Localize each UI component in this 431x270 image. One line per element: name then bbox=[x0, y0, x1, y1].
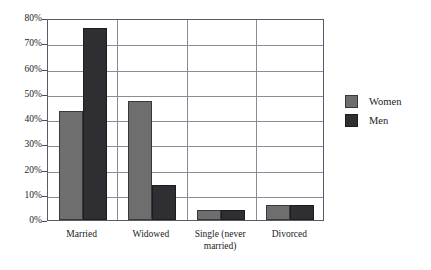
bar-married-women bbox=[59, 111, 83, 220]
plot-area bbox=[47, 19, 324, 221]
x-axis-category-label: Single (nevermarried) bbox=[186, 229, 255, 252]
legend-item-men: Men bbox=[345, 111, 429, 130]
bar-widowed-men bbox=[152, 185, 176, 220]
bar-married-men bbox=[83, 28, 107, 220]
bar-single-men bbox=[221, 210, 245, 220]
y-axis-tick-label: 50% bbox=[2, 90, 42, 100]
x-axis-category-label: Married bbox=[47, 229, 116, 241]
legend-item-women: Women bbox=[345, 92, 429, 111]
bar-single-women bbox=[197, 210, 221, 220]
legend-swatch-icon bbox=[345, 95, 358, 108]
bar-chart: 0%10%20%30%40%50%60%70%80% MarriedWidowe… bbox=[0, 0, 431, 270]
x-axis-category-label: Widowed bbox=[116, 229, 185, 241]
y-axis-tick-label: 60% bbox=[2, 65, 42, 75]
bar-divorced-women bbox=[266, 205, 290, 220]
bar-divorced-men bbox=[290, 205, 314, 220]
y-axis-tick-label: 10% bbox=[2, 191, 42, 201]
y-axis-tick-label: 30% bbox=[2, 140, 42, 150]
legend-swatch-icon bbox=[345, 114, 358, 127]
y-axis-tick-mark bbox=[42, 221, 47, 222]
y-axis-tick-label: 0% bbox=[2, 216, 42, 226]
x-axis-category-label-line: Married bbox=[47, 229, 116, 241]
x-axis-category-label-line: Widowed bbox=[116, 229, 185, 241]
x-axis-category-label: Divorced bbox=[255, 229, 324, 241]
bar-widowed-women bbox=[128, 101, 152, 220]
legend-label: Women bbox=[369, 96, 401, 107]
y-axis-tick-label: 20% bbox=[2, 166, 42, 176]
legend-label: Men bbox=[369, 115, 388, 126]
y-axis-tick-label: 80% bbox=[2, 14, 42, 24]
y-axis-tick-label: 40% bbox=[2, 115, 42, 125]
legend: WomenMen bbox=[345, 92, 429, 130]
category-separator bbox=[117, 20, 118, 220]
category-separator bbox=[187, 20, 188, 220]
x-axis-category-label-line: Divorced bbox=[255, 229, 324, 241]
y-axis-tick-label: 70% bbox=[2, 39, 42, 49]
x-axis-category-label-line: Single (never bbox=[186, 229, 255, 241]
x-axis-category-label-line: married) bbox=[186, 241, 255, 253]
category-separator bbox=[256, 20, 257, 220]
